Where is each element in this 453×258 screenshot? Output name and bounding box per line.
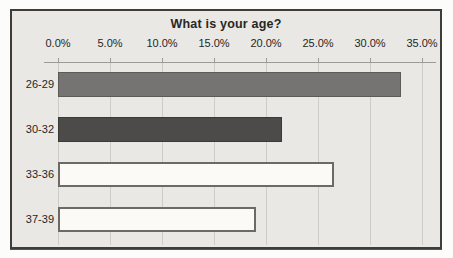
x-tick-label: 10.0% [146,37,177,49]
axis-tick [266,58,267,62]
category-label: 33-36 [12,168,54,180]
axis-tick [422,58,423,62]
x-tick-label: 0.0% [45,37,70,49]
axis-tick [110,58,111,62]
chart-title: What is your age? [12,17,440,31]
category-label: 26-29 [12,78,54,90]
x-tick-label: 15.0% [198,37,229,49]
bar-30-32 [58,117,282,142]
bar-26-29 [58,72,401,97]
x-tick-label: 25.0% [302,37,333,49]
axis-tick [214,58,215,62]
bar-37-39 [58,207,256,232]
axis-tick [162,58,163,62]
x-tick-label: 30.0% [354,37,385,49]
x-tick-label: 35.0% [406,37,437,49]
axis-tick [370,58,371,62]
x-axis-line [44,62,436,63]
x-tick-label: 5.0% [97,37,122,49]
x-tick-label: 20.0% [250,37,281,49]
axis-tick [318,58,319,62]
chart-frame: What is your age? 0.0%5.0%10.0%15.0%20.0… [10,9,442,249]
bar-33-36 [58,162,334,187]
category-label: 30-32 [12,123,54,135]
gridline [422,63,423,245]
category-label: 37-39 [12,213,54,225]
scanned-survey-chart: { "chart_data": { "type": "bar", "orient… [0,0,453,258]
axis-tick [58,58,59,62]
